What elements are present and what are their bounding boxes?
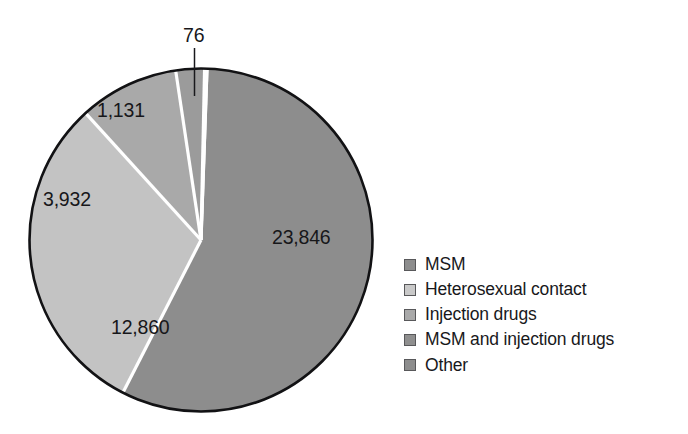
legend-item-msm-and-injection-drugs: MSM and injection drugs — [404, 328, 674, 353]
slice-label-injection-drugs: 3,932 — [43, 190, 91, 210]
slice-label-msm: 23,846 — [272, 228, 330, 248]
legend-item-heterosexual-contact: Heterosexual contact — [404, 277, 674, 302]
legend-label-heterosexual-contact: Heterosexual contact — [425, 281, 586, 299]
legend-label-msm: MSM — [425, 256, 465, 274]
legend-label-other: Other — [425, 357, 468, 375]
pie-plot-area: 23,846 12,860 3,932 1,131 76 — [0, 0, 410, 434]
legend-label-injection-drugs: Injection drugs — [425, 306, 537, 324]
legend-swatch-icon-msm-and-injection-drugs — [404, 334, 416, 346]
legend-item-other: Other — [404, 353, 674, 378]
slice-label-msm-and-injection-drugs: 1,131 — [97, 101, 145, 121]
pie-svg — [0, 0, 410, 434]
legend-swatch-icon-heterosexual-contact — [404, 284, 416, 296]
legend-item-injection-drugs: Injection drugs — [404, 302, 674, 327]
legend-swatch-icon-other — [404, 359, 416, 371]
pie-chart-figure: 23,846 12,860 3,932 1,131 76 MSM Heteros… — [0, 0, 688, 434]
legend-swatch-icon-msm — [404, 259, 416, 271]
legend-item-msm: MSM — [404, 252, 674, 277]
legend-swatch-icon-injection-drugs — [404, 309, 416, 321]
slice-label-heterosexual-contact: 12,860 — [111, 318, 169, 338]
slice-label-other: 76 — [183, 26, 204, 46]
chart-legend: MSM Heterosexual contact Injection drugs… — [404, 252, 674, 378]
legend-label-msm-and-injection-drugs: MSM and injection drugs — [425, 331, 614, 349]
